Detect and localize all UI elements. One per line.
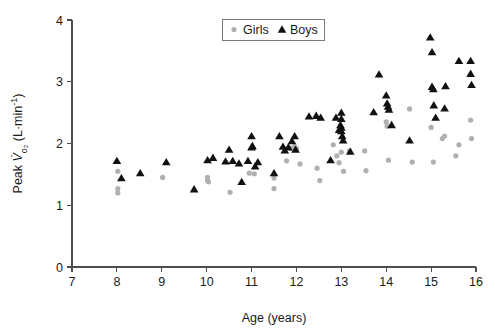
data-point-girls	[384, 119, 389, 124]
scatter-plot-figure: 0123478910111213141516 GirlsBoys Age (ye…	[0, 0, 495, 332]
data-point-boys	[466, 70, 475, 77]
data-point-girls	[442, 133, 447, 138]
data-point-boys	[221, 157, 230, 164]
data-point-boys	[441, 82, 450, 89]
data-point-boys	[305, 112, 314, 119]
data-point-boys	[290, 132, 299, 139]
data-point-boys	[428, 48, 437, 55]
data-point-girls	[206, 179, 211, 184]
data-point-boys	[270, 169, 279, 176]
data-point-girls	[334, 153, 339, 158]
data-point-girls	[252, 171, 257, 176]
x-tick-label: 16	[469, 275, 483, 289]
data-point-girls	[362, 148, 367, 153]
data-point-boys	[247, 132, 256, 139]
chart-legend: GirlsBoys	[222, 19, 324, 40]
data-point-boys	[228, 157, 237, 164]
axis-ticks	[67, 20, 476, 272]
data-point-boys	[254, 158, 263, 165]
x-tick-label: 15	[424, 275, 438, 289]
data-point-girls	[331, 142, 336, 147]
data-point-boys	[275, 132, 284, 139]
series-boys-points	[113, 33, 476, 192]
data-point-boys	[136, 169, 145, 176]
data-point-girls	[363, 168, 368, 173]
data-point-girls	[115, 190, 120, 195]
legend-marker-girls	[231, 27, 236, 32]
data-point-boys	[248, 142, 257, 149]
data-point-girls	[271, 186, 276, 191]
data-point-boys	[209, 154, 218, 161]
data-point-boys	[405, 136, 414, 143]
x-tick-label: 10	[200, 275, 214, 289]
y-axis-title: Peak V̇o₂ (L·min-1)	[9, 94, 29, 194]
data-point-boys	[467, 81, 476, 88]
y-tick-label: 3	[56, 75, 63, 89]
data-point-boys	[426, 33, 435, 40]
data-point-girls	[469, 136, 474, 141]
x-tick-label: 8	[113, 275, 120, 289]
data-point-boys	[375, 70, 384, 77]
data-point-girls	[284, 158, 289, 163]
x-tick-label: 7	[69, 275, 76, 289]
x-tick-label: 13	[334, 275, 348, 289]
axis-titles: Age (years)Peak V̇o₂ (L·min-1)	[9, 94, 306, 325]
axes	[72, 20, 476, 267]
data-point-girls	[407, 106, 412, 111]
data-point-boys	[431, 113, 440, 120]
data-point-boys	[466, 57, 475, 64]
y-tick-label: 2	[56, 137, 63, 151]
y-tick-label: 4	[56, 14, 63, 28]
data-point-girls	[314, 166, 319, 171]
y-tick-label: 1	[56, 199, 63, 213]
data-point-boys	[382, 91, 391, 98]
data-point-boys	[162, 158, 171, 165]
data-point-boys	[244, 157, 253, 164]
data-point-girls	[341, 169, 346, 174]
data-point-boys	[369, 108, 378, 115]
data-point-girls	[339, 150, 344, 155]
data-point-girls	[429, 125, 434, 130]
data-point-boys	[429, 101, 438, 108]
data-point-girls	[115, 169, 120, 174]
data-point-girls	[456, 142, 461, 147]
data-point-girls	[336, 160, 341, 165]
data-point-boys	[440, 104, 449, 111]
legend-label-girls: Girls	[243, 23, 269, 37]
data-point-girls	[431, 159, 436, 164]
legend-label-boys: Boys	[290, 23, 318, 37]
data-point-boys	[117, 174, 126, 181]
data-point-boys	[455, 57, 464, 64]
data-point-boys	[326, 156, 335, 163]
data-point-girls	[468, 117, 473, 122]
data-point-boys	[113, 157, 122, 164]
data-point-girls	[227, 190, 232, 195]
chart-canvas: 0123478910111213141516 GirlsBoys Age (ye…	[0, 0, 495, 332]
data-point-boys	[225, 146, 234, 153]
data-point-girls	[297, 161, 302, 166]
x-axis-title: Age (years)	[242, 311, 307, 325]
data-point-girls	[453, 153, 458, 158]
y-tick-label: 0	[56, 261, 63, 275]
axis-tick-labels: 0123478910111213141516	[56, 14, 483, 290]
x-tick-label: 11	[245, 275, 258, 289]
x-tick-label: 12	[289, 275, 303, 289]
data-point-girls	[317, 178, 322, 183]
x-tick-label: 14	[379, 275, 393, 289]
data-point-girls	[160, 175, 165, 180]
data-point-girls	[386, 158, 391, 163]
data-point-girls	[410, 159, 415, 164]
data-point-girls	[247, 171, 252, 176]
x-tick-label: 9	[158, 275, 165, 289]
data-point-boys	[190, 185, 199, 192]
data-point-boys	[237, 178, 246, 185]
